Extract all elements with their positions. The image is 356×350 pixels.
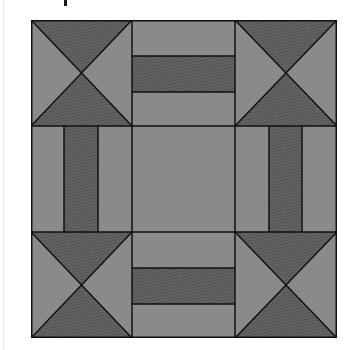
block-bottom-center-strip (132, 268, 235, 304)
quilt-block-diagram (31, 20, 337, 338)
block-middle-left-strip (64, 126, 98, 232)
cropped-text-fragment (64, 0, 67, 6)
quilt-svg (31, 20, 337, 338)
page-margin-line (3, 0, 4, 350)
block-middle-right-strip (269, 126, 302, 232)
block-top-center-strip (132, 56, 235, 92)
